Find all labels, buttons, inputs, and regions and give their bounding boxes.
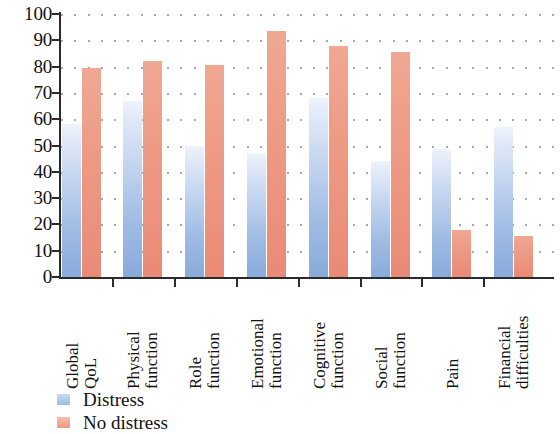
gridline-dot	[552, 40, 554, 42]
y-axis-tick	[52, 39, 61, 41]
bar	[247, 153, 266, 277]
gridline-dot	[101, 224, 103, 226]
gridline-dot	[512, 119, 514, 121]
gridline-dot	[552, 251, 554, 253]
legend-swatch-no-distress-icon	[57, 417, 70, 428]
gridline-dot	[74, 40, 76, 42]
y-axis-tick	[52, 66, 61, 68]
gridline-dot	[74, 67, 76, 69]
gridline-dot	[486, 119, 488, 121]
gridline-dot	[114, 251, 116, 253]
bar	[185, 146, 204, 278]
gridline-dot	[472, 93, 474, 95]
gridline-dot	[459, 40, 461, 42]
gridline-dot	[472, 40, 474, 42]
bar	[494, 127, 513, 277]
x-axis-label-line: Global	[64, 343, 82, 389]
gridline-dot	[233, 172, 235, 174]
gridline-dot	[127, 14, 129, 16]
y-axis-tick-label: 20	[8, 214, 52, 233]
gridline-dot	[539, 146, 541, 148]
x-axis-label: Socialfunction	[392, 285, 393, 286]
gridline-dot	[167, 67, 169, 69]
gridline-dot	[233, 14, 235, 16]
gridline-dot	[260, 67, 262, 69]
x-axis-label-line: Role	[187, 332, 205, 389]
gridline-dot	[525, 67, 527, 69]
gridline-dot	[539, 40, 541, 42]
gridline-dot	[472, 67, 474, 69]
gridline-dot	[539, 67, 541, 69]
x-axis-label-line: difficulties	[514, 316, 532, 389]
gridline-dot	[379, 40, 381, 42]
gridline-dot	[313, 14, 315, 16]
gridline-dot	[101, 14, 103, 16]
gridline-dot	[300, 172, 302, 174]
gridline-dot	[353, 146, 355, 148]
gridline-dot	[300, 14, 302, 16]
gridline-dot	[499, 14, 501, 16]
legend-item-no-distress[interactable]: No distress	[57, 412, 168, 433]
gridline-dot	[88, 14, 90, 16]
gridline-dot	[233, 198, 235, 200]
gridline-dot	[366, 198, 368, 200]
x-axis-label-line: QoL	[82, 343, 100, 389]
gridline-dot	[247, 67, 249, 69]
gridline-dot	[260, 40, 262, 42]
gridline-dot	[419, 67, 421, 69]
x-axis-label: Physicalfunction	[144, 285, 145, 286]
legend-item-distress[interactable]: Distress	[57, 389, 168, 410]
gridline-dot	[61, 67, 63, 69]
gridline-dot	[499, 93, 501, 95]
gridline-dot	[180, 14, 182, 16]
y-axis-tick-label: 90	[8, 30, 52, 49]
bar	[62, 124, 81, 277]
y-axis-tick	[52, 118, 61, 120]
gridline-dot	[366, 67, 368, 69]
gridline-dot	[233, 251, 235, 253]
gridline-dot	[114, 198, 116, 200]
gridline-dot	[432, 67, 434, 69]
gridline-dot	[61, 119, 63, 121]
gridline-dot	[340, 14, 342, 16]
gridline-dot	[260, 119, 262, 121]
gridline-dot	[486, 224, 488, 226]
gridline-dot	[446, 93, 448, 95]
gridline-dot	[287, 14, 289, 16]
y-axis-tick	[52, 13, 61, 15]
gridline-dot	[353, 40, 355, 42]
bar	[371, 161, 390, 277]
gridline-dot	[300, 251, 302, 253]
gridline	[61, 14, 554, 15]
gridline-dot	[552, 14, 554, 16]
gridline-dot	[233, 93, 235, 95]
x-axis-label-line: function	[205, 332, 223, 389]
bar	[452, 230, 471, 277]
gridline-dot	[127, 40, 129, 42]
gridline-dot	[525, 224, 527, 226]
gridline-dot	[472, 14, 474, 16]
gridline-dot	[127, 93, 129, 95]
gridline-dot	[459, 67, 461, 69]
gridline-dot	[472, 198, 474, 200]
y-axis-tick-label: 30	[8, 188, 52, 207]
gridline-dot	[353, 224, 355, 226]
bar	[514, 236, 533, 277]
gridline-dot	[287, 93, 289, 95]
gridline-dot	[446, 14, 448, 16]
gridline-dot	[180, 40, 182, 42]
y-axis-tick-label: 50	[8, 136, 52, 155]
gridline-dot	[459, 224, 461, 226]
gridline-dot	[74, 119, 76, 121]
gridline-dot	[525, 14, 527, 16]
gridline-dot	[114, 14, 116, 16]
gridline-dot	[353, 119, 355, 121]
gridline-dot	[539, 198, 541, 200]
gridline-dot	[114, 119, 116, 121]
gridline-dot	[260, 93, 262, 95]
gridline-dot	[472, 224, 474, 226]
gridline-dot	[432, 40, 434, 42]
gridline-dot	[247, 14, 249, 16]
gridline-dot	[287, 146, 289, 148]
gridline-dot	[114, 40, 116, 42]
